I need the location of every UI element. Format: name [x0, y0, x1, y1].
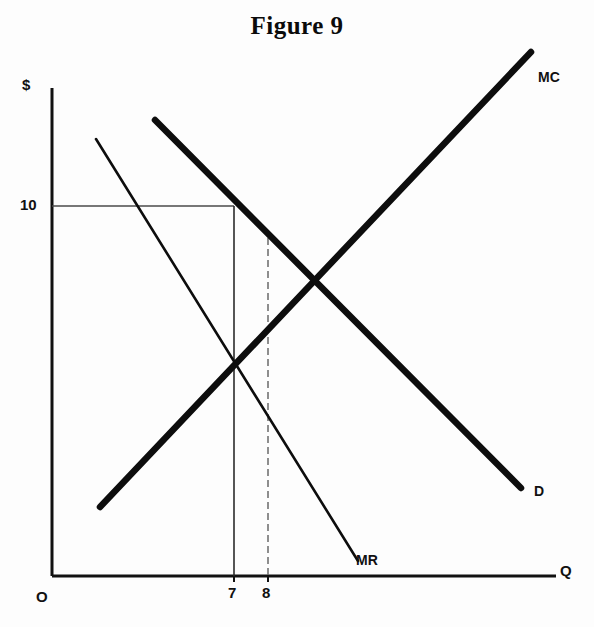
- mc-curve-label: MC: [538, 69, 560, 85]
- y-axis-label: $: [22, 76, 30, 93]
- mr-curve: [96, 139, 358, 561]
- demand-curve: [155, 120, 521, 488]
- x-axis-label: Q: [560, 562, 572, 579]
- demand-curve-label: D: [534, 483, 544, 499]
- mr-curve-label: MR: [356, 552, 378, 568]
- x-tick-label-7: 7: [228, 584, 236, 601]
- y-tick-label-10: 10: [20, 196, 37, 213]
- figure-container: Figure 9 $ Q O 10 7 8 MC D MR: [0, 0, 594, 627]
- economics-diagram: [0, 0, 594, 627]
- origin-label: O: [36, 588, 48, 605]
- x-tick-label-8: 8: [262, 584, 270, 601]
